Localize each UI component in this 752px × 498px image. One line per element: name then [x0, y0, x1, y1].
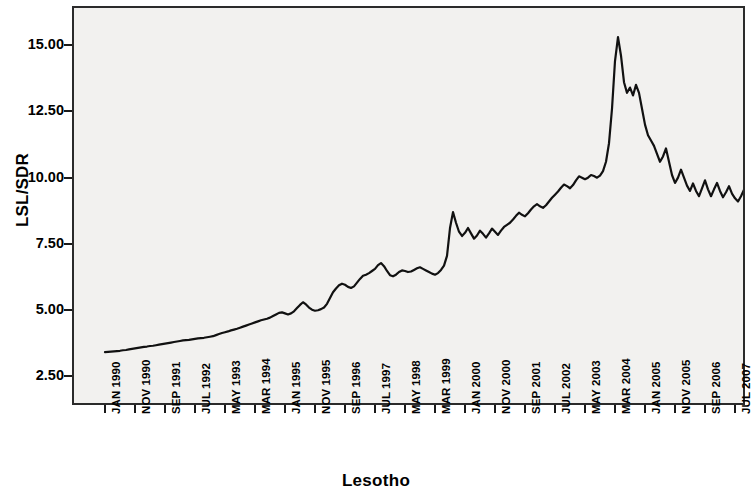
y-tick-mark: [64, 375, 72, 377]
y-tick-label: 15.00: [6, 37, 64, 52]
x-tick-mark: [134, 405, 136, 413]
y-tick-mark: [64, 309, 72, 311]
x-tick-mark: [554, 405, 556, 413]
x-tick-label: NOV 1995: [320, 360, 332, 415]
x-tick-mark: [404, 405, 406, 413]
x-tick-label: JUL 2002: [560, 363, 572, 414]
x-tick-mark: [734, 405, 736, 413]
x-tick-label: JAN 2000: [470, 361, 482, 414]
x-axis-title: Lesotho: [0, 471, 752, 491]
x-tick-mark: [344, 405, 346, 413]
x-tick-mark: [104, 405, 106, 413]
x-tick-label: JUL 1997: [380, 363, 392, 414]
x-tick-label: SEP 2006: [710, 362, 722, 414]
x-tick-mark: [164, 405, 166, 413]
x-tick-mark: [224, 405, 226, 413]
x-tick-label: MAR 2004: [620, 358, 632, 414]
x-tick-mark: [254, 405, 256, 413]
x-tick-label: JAN 1990: [110, 361, 122, 414]
y-tick-mark: [64, 177, 72, 179]
x-tick-mark: [524, 405, 526, 413]
x-tick-label: SEP 1996: [350, 362, 362, 414]
x-tick-mark: [614, 405, 616, 413]
x-tick-label: NOV 2005: [680, 360, 692, 415]
x-tick-mark: [374, 405, 376, 413]
x-tick-label: JUL 1992: [200, 363, 212, 414]
x-tick-mark: [284, 405, 286, 413]
x-tick-label: JAN 1995: [290, 361, 302, 414]
x-tick-mark: [674, 405, 676, 413]
plot-area: [72, 6, 745, 405]
y-tick-label: 7.50: [6, 236, 64, 251]
x-tick-label: SEP 1991: [170, 362, 182, 414]
x-tick-mark: [314, 405, 316, 413]
x-tick-label: MAR 1999: [440, 358, 452, 414]
y-tick-label: 5.00: [6, 302, 64, 317]
y-tick-mark: [64, 243, 72, 245]
x-tick-mark: [704, 405, 706, 413]
x-tick-mark: [434, 405, 436, 413]
y-tick-mark: [64, 110, 72, 112]
x-tick-mark: [494, 405, 496, 413]
y-tick-label: 10.00: [6, 170, 64, 185]
x-tick-mark: [584, 405, 586, 413]
x-tick-label: MAY 1993: [230, 360, 242, 414]
x-tick-label: JUL 2007: [740, 363, 752, 414]
chart-figure: LSL/SDR 2.505.007.5010.0012.5015.00 JAN …: [0, 0, 752, 498]
x-tick-mark: [194, 405, 196, 413]
x-tick-label: MAY 2003: [590, 360, 602, 414]
y-tick-label: 12.50: [6, 103, 64, 118]
y-tick-mark: [64, 44, 72, 46]
x-tick-label: SEP 2001: [530, 362, 542, 414]
series-line-lsl-sdr: [105, 35, 743, 353]
x-tick-mark: [464, 405, 466, 413]
x-tick-label: MAR 1994: [260, 358, 272, 414]
line-series-svg: [74, 8, 743, 403]
y-tick-label: 2.50: [6, 368, 64, 383]
x-tick-label: MAY 1998: [410, 360, 422, 414]
x-tick-label: JAN 2005: [650, 361, 662, 414]
x-tick-mark: [644, 405, 646, 413]
y-axis-ticks: 2.505.007.5010.0012.5015.00: [0, 0, 64, 498]
x-tick-label: NOV 1990: [140, 360, 152, 415]
x-tick-label: NOV 2000: [500, 360, 512, 415]
